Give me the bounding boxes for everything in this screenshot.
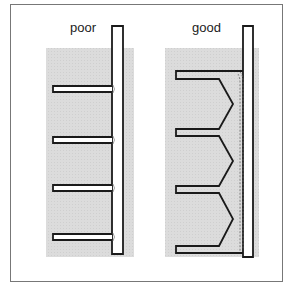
poor-vertical-plate bbox=[112, 26, 123, 254]
label-good: good bbox=[192, 20, 221, 35]
panel-poor bbox=[46, 26, 134, 257]
label-poor: poor bbox=[70, 20, 96, 35]
poor-fin-1 bbox=[53, 86, 112, 92]
diagram-canvas bbox=[0, 0, 292, 289]
poor-fin-4 bbox=[53, 234, 112, 240]
panel-good bbox=[165, 26, 259, 257]
good-vertical-plate bbox=[243, 26, 253, 257]
poor-fin-2 bbox=[53, 137, 112, 143]
poor-fin-3 bbox=[53, 185, 112, 191]
